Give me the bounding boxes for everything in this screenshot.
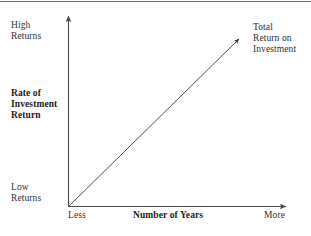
x-axis-min-label: Less (68, 210, 86, 221)
y-axis-high-label: High Returns (11, 20, 41, 42)
x-axis-title: Number of Years (133, 210, 203, 221)
x-axis-max-label: More (264, 210, 285, 221)
y-axis-low-label: Low Returns (11, 182, 41, 204)
y-axis-title: Rate of Investment Return (11, 88, 57, 121)
trend-line-total-return (69, 39, 239, 206)
series-annotation-label: Total Return on Investment (253, 22, 296, 55)
chart-figure: High Returns Rate of Investment Return L… (0, 0, 311, 236)
